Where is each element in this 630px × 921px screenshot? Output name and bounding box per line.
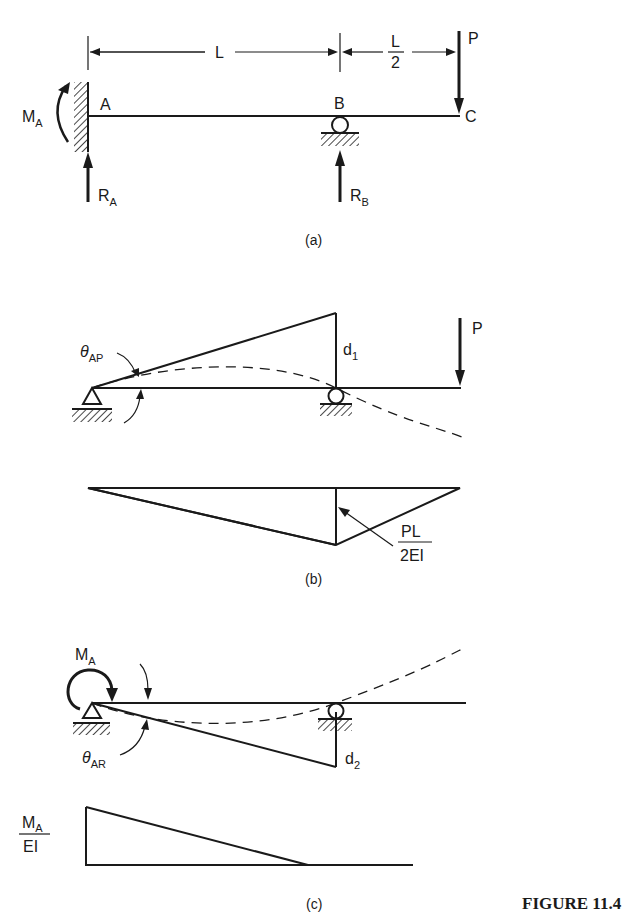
- diagram-numerator: MA: [22, 814, 43, 834]
- deflection-d2-label: d2: [345, 750, 360, 771]
- figure-canvas: L L 2 MA A B C P RA RB (a): [0, 0, 630, 921]
- panel-a: L L 2 MA A B C P RA RB (a): [22, 30, 479, 248]
- caption-a: (a): [305, 232, 322, 248]
- moment-arrow-icon: [57, 86, 68, 142]
- point-A-label: A: [100, 96, 111, 113]
- reaction-B-label: RB: [350, 187, 369, 208]
- moment-value-numerator: PL: [401, 523, 421, 540]
- reaction-A-label: RA: [98, 187, 118, 208]
- fixed-support-hatch: [74, 82, 87, 152]
- elastic-curve: [92, 367, 462, 437]
- roller-support: [332, 117, 348, 133]
- ground-hatch: [321, 134, 359, 146]
- moment-diagram-base: [86, 807, 413, 865]
- ground-hatch: [318, 720, 352, 731]
- tangent-line: [92, 703, 336, 767]
- point-B-label: B: [334, 95, 345, 112]
- load-P-label: P: [468, 30, 479, 47]
- deflection-d1-label: d1: [343, 341, 358, 362]
- tangent-line: [92, 313, 336, 388]
- moment-diagram-edge: [88, 488, 336, 545]
- dimension-half-denominator: 2: [391, 54, 400, 71]
- diagram-denominator: EI: [23, 838, 38, 855]
- theta-AP-label: θAP: [80, 343, 103, 364]
- figure-title: FIGURE 11.4: [522, 894, 622, 913]
- point-C-label: C: [465, 108, 477, 125]
- dimension-L-label: L: [215, 44, 224, 61]
- angle-arrow-icon: [120, 726, 145, 755]
- moment-label: MA: [75, 646, 96, 667]
- ground-hatch: [72, 410, 112, 422]
- dimension-half-numerator: L: [391, 33, 400, 50]
- panel-c: MA θAR d2 MA EI (c): [19, 646, 466, 912]
- theta-AR-label: θAR: [82, 749, 106, 770]
- leader-arrow-icon: [345, 512, 393, 546]
- roller-support: [329, 389, 344, 404]
- ground-hatch: [320, 405, 352, 416]
- caption-c: (c): [306, 896, 322, 912]
- panel-b: θAP d1 P PL 2EI (b): [72, 313, 483, 587]
- pin-support: [83, 388, 101, 404]
- moment-diagram-slope: [86, 807, 308, 865]
- moment-value-denominator: 2EI: [400, 547, 424, 564]
- ground-hatch: [73, 724, 110, 735]
- angle-arrow-icon: [140, 664, 148, 690]
- angle-arrow-icon: [124, 396, 140, 423]
- load-P-label: P: [472, 320, 483, 337]
- moment-label: MA: [22, 108, 43, 129]
- caption-b: (b): [305, 571, 322, 587]
